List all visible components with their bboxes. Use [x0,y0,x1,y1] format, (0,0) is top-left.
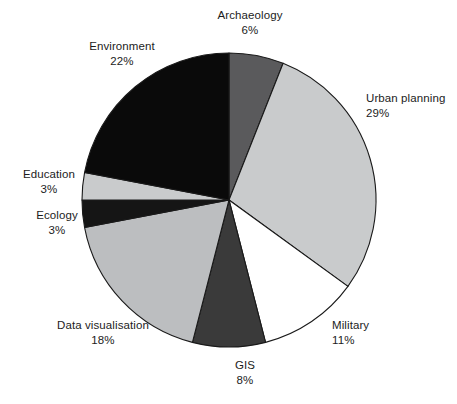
pie-label-name-military: Military [332,318,369,333]
pie-label-name-urban-planning: Urban planning [366,91,445,106]
pie-label-data-visualisation: Data visualisation18% [57,318,149,347]
pie-label-value-education: 3% [23,182,75,197]
pie-label-name-ecology: Ecology [36,208,78,223]
pie-label-name-environment: Environment [89,39,155,54]
pie-label-name-education: Education [23,167,75,182]
pie-label-value-environment: 22% [89,54,155,69]
pie-label-environment: Environment22% [89,39,155,68]
pie-label-urban-planning: Urban planning29% [366,91,445,120]
pie-label-value-ecology: 3% [36,223,78,238]
pie-label-education: Education3% [23,167,75,196]
pie-label-military: Military11% [332,318,369,347]
pie-label-name-data-visualisation: Data visualisation [57,318,149,333]
pie-chart-figure: Archaeology6%Urban planning29%Military11… [0,0,457,404]
pie-label-value-data-visualisation: 18% [57,333,149,348]
pie-label-ecology: Ecology3% [36,208,78,237]
pie-label-value-gis: 8% [235,373,255,388]
pie-label-value-archaeology: 6% [217,23,282,38]
pie-label-value-military: 11% [332,333,369,348]
pie-label-archaeology: Archaeology6% [217,8,282,37]
pie-slice-group [82,53,376,347]
pie-label-name-archaeology: Archaeology [217,8,282,23]
pie-label-gis: GIS8% [235,358,255,387]
pie-label-name-gis: GIS [235,358,255,373]
pie-label-value-urban-planning: 29% [366,106,445,121]
